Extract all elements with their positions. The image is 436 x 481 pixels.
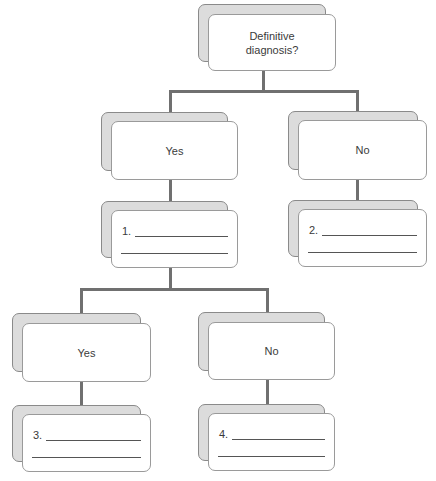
no-label: No [355,143,369,157]
connector-no2-to-answer4 [266,380,269,405]
answer2-blank-line-2[interactable] [308,252,417,253]
no-box: No [298,120,427,180]
answer4-number: 4. [219,428,228,440]
answer4-box[interactable]: 4. [208,413,335,471]
yes-box: Yes [111,121,238,180]
root-question-box: Definitive diagnosis? [208,14,336,71]
answer1-blank-line-1[interactable] [135,236,228,237]
answer4-blank-line-1[interactable] [232,439,325,440]
answer1-box[interactable]: 1. [111,210,238,268]
no2-box: No [208,322,335,380]
answer1-blank-line-2[interactable] [121,253,228,254]
connector-yes2-to-answer3 [80,382,83,406]
answer3-blank-line-2[interactable] [32,457,141,458]
connector-to-yes2 [80,288,83,314]
connector-to-no [356,90,359,112]
answer2-box[interactable]: 2. [298,209,427,267]
connector-to-no2 [266,288,269,313]
root-question-label: Definitive diagnosis? [237,29,307,57]
answer3-number: 3. [33,429,42,441]
connector-answer1-down [169,268,172,290]
answer3-blank-line-1[interactable] [46,440,141,441]
connector-level2-horizontal [80,288,269,291]
connector-to-yes [169,90,172,113]
connector-root-down [262,70,265,92]
yes2-label: Yes [78,346,96,360]
connector-no-to-answer2 [356,180,359,201]
answer2-number: 2. [309,224,318,236]
answer1-number: 1. [122,225,131,237]
connector-level1-horizontal [169,90,359,93]
answer2-blank-line-1[interactable] [322,235,417,236]
connector-yes-to-answer1 [169,180,172,202]
answer4-blank-line-2[interactable] [218,456,325,457]
yes2-box: Yes [22,323,151,382]
answer3-box[interactable]: 3. [22,414,151,472]
no2-label: No [264,344,278,358]
yes-label: Yes [166,144,184,158]
